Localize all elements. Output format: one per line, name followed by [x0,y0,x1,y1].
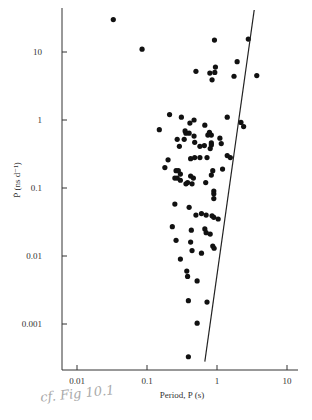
data-point [204,155,209,160]
data-point [184,268,189,273]
data-point [192,140,197,145]
data-point [202,143,207,148]
data-point [212,246,217,251]
data-point [186,354,191,359]
data-point [189,228,194,233]
data-point [167,112,172,117]
scatter-plot: 0.010.11100.0010.010.1110Period, P (s)Ṗ … [0,0,312,420]
data-point [189,248,194,253]
data-point [209,172,214,177]
data-point [178,178,183,183]
data-point [197,144,202,149]
data-point [202,123,207,128]
data-point [177,144,182,149]
boundary-line [205,10,254,362]
data-point [187,121,192,126]
data-point [208,231,213,236]
y-tick-label: 0.01 [26,251,42,261]
data-point [209,132,214,137]
y-axis-label: Ṗ (ns d⁻¹) [12,162,22,198]
data-point [235,59,240,64]
data-point [162,165,167,170]
data-point [170,224,175,229]
data-point [186,298,191,303]
data-point [182,137,187,142]
y-tick-label: 0.1 [31,183,42,193]
data-point [212,70,217,75]
data-point [179,115,184,120]
data-point [208,146,213,151]
data-point [254,73,259,78]
data-point [211,191,216,196]
data-point [220,166,225,171]
data-point [210,168,215,173]
axes: 0.010.11100.0010.010.1110Period, P (s)Ṗ … [12,8,298,400]
data-point [175,137,180,142]
data-point [172,201,177,206]
data-point [139,47,144,52]
data-point [183,181,188,186]
x-tick-label: 0.1 [141,376,152,386]
data-point [192,155,197,160]
data-point [219,141,224,146]
data-point [189,181,194,186]
data-point [216,216,221,221]
data-point [111,17,116,22]
x-tick-label: 1 [215,376,220,386]
data-point [199,251,204,256]
data-point [191,117,196,122]
data-point [182,128,187,133]
data-point [197,155,202,160]
data-point [173,238,178,243]
data-point [213,64,218,69]
y-tick-label: 1 [38,115,43,125]
data-point [204,299,209,304]
x-tick-label: 10 [283,376,293,386]
data-point [203,180,208,185]
data-point [188,240,193,245]
data-point [212,37,217,42]
data-point [195,321,200,326]
data-point [185,274,190,279]
data-point [157,127,162,132]
y-tick-label: 10 [33,47,43,57]
data-point [195,278,200,283]
data-point [225,115,230,120]
data-point [211,196,216,201]
data-point [187,205,192,210]
data-point [165,157,170,162]
data-point [191,133,196,138]
data-point [231,74,236,79]
y-tick-label: 0.001 [22,319,42,329]
data-point [178,257,183,262]
data-point [207,70,212,75]
data-point [193,69,198,74]
data-point [191,175,196,180]
data-point [217,136,222,141]
data-point [209,77,214,82]
data-point [204,212,209,217]
data-point [241,124,246,129]
x-axis-label: Period, P (s) [160,390,204,400]
data-point [193,212,198,217]
data-point [199,211,204,216]
data-point [228,155,233,160]
data-points [111,17,260,359]
